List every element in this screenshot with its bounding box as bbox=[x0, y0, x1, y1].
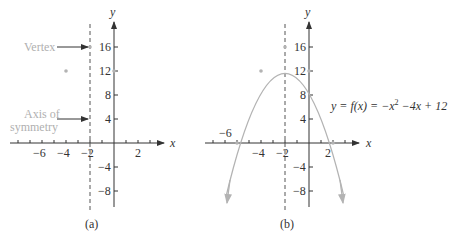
y-ticks bbox=[309, 47, 313, 191]
y-tick-label: 12 bbox=[294, 64, 306, 78]
x-tick-label: −6 bbox=[33, 146, 46, 160]
vertex-label: Vertex bbox=[24, 40, 55, 54]
x-tick-label: −2 bbox=[81, 146, 94, 160]
x-axis-label: x bbox=[365, 136, 372, 150]
y-tick-label: 16 bbox=[294, 40, 306, 54]
panel-a: Vertex Axis of symmetry y x −6 −4 −2 2 1… bbox=[10, 5, 176, 231]
symmetry-label: symmetry bbox=[10, 120, 58, 134]
y-tick-label: −8 bbox=[98, 184, 111, 198]
y-tick-label: 12 bbox=[99, 64, 111, 78]
x-tick-label: 2 bbox=[135, 146, 141, 160]
y-tick-label: 8 bbox=[105, 88, 111, 102]
x-tick-label: −4 bbox=[57, 146, 70, 160]
vertex-point bbox=[283, 45, 287, 49]
y-axis-label: y bbox=[304, 5, 311, 19]
parabola-curve bbox=[226, 73, 344, 195]
figure: Vertex Axis of symmetry y x −6 −4 −2 2 1… bbox=[0, 0, 453, 239]
x-tick-label: −4 bbox=[252, 146, 265, 160]
point-neg4-12 bbox=[64, 69, 68, 73]
point-0-12 bbox=[112, 69, 116, 73]
x-tick-label: 2 bbox=[325, 146, 331, 160]
y-tick-label: 8 bbox=[300, 88, 306, 102]
x-tick-label: −2 bbox=[276, 146, 289, 160]
x-axis-label: x bbox=[169, 136, 176, 150]
y-tick-label: 4 bbox=[300, 112, 306, 126]
point-0-12 bbox=[307, 69, 311, 73]
y-tick-label: −4 bbox=[98, 160, 111, 174]
y-tick-label: 4 bbox=[105, 112, 111, 126]
caption-a: (a) bbox=[85, 217, 98, 231]
y-tick-label: 16 bbox=[99, 40, 111, 54]
axis-of-label: Axis of bbox=[24, 107, 60, 121]
y-ticks bbox=[114, 47, 118, 191]
vertex-point bbox=[88, 45, 92, 49]
panel-b: y x −6 −4 −2 2 16 12 8 4 −4 −8 y = f(x) … bbox=[205, 5, 447, 231]
x-tick-label: −6 bbox=[219, 126, 232, 140]
y-tick-label: −4 bbox=[293, 160, 306, 174]
equation-label: y = f(x) = −x2 −4x + 12 bbox=[330, 98, 447, 113]
y-tick-label: −8 bbox=[293, 184, 306, 198]
y-axis-label: y bbox=[109, 5, 116, 19]
point-neg6-0 bbox=[235, 141, 239, 145]
caption-b: (b) bbox=[280, 217, 294, 231]
point-neg4-12 bbox=[259, 69, 263, 73]
point-2-0 bbox=[331, 141, 335, 145]
